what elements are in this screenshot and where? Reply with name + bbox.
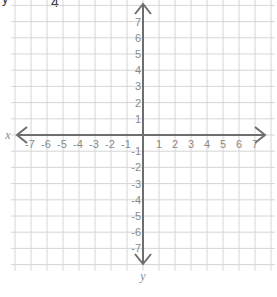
x-tick-label: -2 bbox=[105, 138, 115, 150]
x-tick-label: 2 bbox=[172, 138, 178, 150]
y-tick-label: 7 bbox=[135, 16, 141, 28]
y-tick-label: -4 bbox=[131, 194, 141, 206]
y-tick-label: 4 bbox=[135, 64, 141, 76]
x-tick-label: -1 bbox=[121, 138, 131, 150]
x-tick-label: 7 bbox=[252, 138, 258, 150]
y-tick-label: -5 bbox=[131, 210, 141, 222]
y-tick-label: 2 bbox=[135, 97, 141, 109]
coordinate-plane: -7-6-5-4-3-2-112345677654321-1-2-3-4-5-6… bbox=[0, 0, 277, 297]
y-tick-label: -3 bbox=[131, 178, 141, 190]
y-tick-label: -1 bbox=[131, 145, 141, 157]
x-tick-label: 5 bbox=[220, 138, 226, 150]
x-tick-label: 4 bbox=[204, 138, 210, 150]
y-tick-label: -2 bbox=[131, 161, 141, 173]
x-tick-label: -3 bbox=[89, 138, 99, 150]
y-tick-label: -7 bbox=[131, 242, 141, 254]
axes bbox=[17, 4, 265, 264]
x-tick-label: 6 bbox=[236, 138, 242, 150]
y-tick-label: -6 bbox=[131, 226, 141, 238]
x-tick-label: -5 bbox=[57, 138, 67, 150]
y-tick-label: 5 bbox=[135, 48, 141, 60]
y-axis-label: y bbox=[139, 269, 146, 283]
x-axis-label: x bbox=[4, 128, 11, 142]
x-tick-label: 1 bbox=[156, 138, 162, 150]
x-tick-label: -4 bbox=[73, 138, 83, 150]
y-tick-label: 3 bbox=[135, 80, 141, 92]
x-tick-label: -6 bbox=[41, 138, 51, 150]
x-tick-label: -7 bbox=[25, 138, 35, 150]
y-tick-label: 1 bbox=[135, 113, 141, 125]
y-tick-label: 6 bbox=[135, 32, 141, 44]
x-tick-label: 3 bbox=[188, 138, 194, 150]
